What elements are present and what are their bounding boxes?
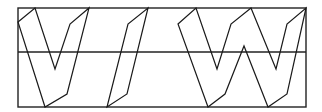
glyph-slash xyxy=(107,8,148,107)
letter-outline-diagram xyxy=(0,0,322,112)
glyph-w xyxy=(178,8,306,107)
glyph-v xyxy=(18,8,89,107)
